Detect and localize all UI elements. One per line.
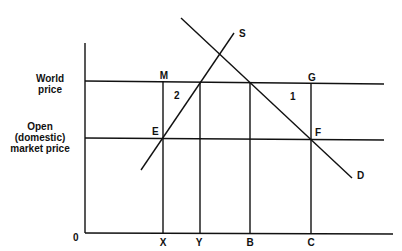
world-price-label-1: World — [36, 73, 64, 84]
domestic-price-line — [85, 138, 384, 140]
x-label-b: B — [246, 237, 253, 248]
domestic-price-label-1: Open — [27, 121, 53, 132]
point-m-label: M — [160, 70, 168, 81]
world-price-label-2: price — [38, 84, 62, 95]
point-f-label: F — [315, 127, 321, 138]
demand-label: D — [357, 170, 364, 181]
x-label-c: C — [307, 237, 314, 248]
x-label-y: Y — [196, 237, 203, 248]
supply-label: S — [239, 28, 246, 39]
point-e-label: E — [152, 126, 159, 137]
demand-curve — [181, 18, 352, 178]
x-label-x: X — [160, 237, 167, 248]
supply-curve — [141, 33, 234, 170]
domestic-price-label-2: (domestic) — [15, 132, 66, 143]
supply-demand-diagram: World price Open (domestic) market price… — [0, 0, 402, 251]
area-2-label: 2 — [174, 90, 180, 101]
x-axis — [85, 233, 393, 234]
world-price-line — [85, 81, 384, 84]
origin-label: 0 — [73, 232, 79, 243]
point-g-label: G — [308, 72, 316, 83]
area-1-label: 1 — [290, 91, 296, 102]
domestic-price-label-3: market price — [10, 143, 70, 154]
